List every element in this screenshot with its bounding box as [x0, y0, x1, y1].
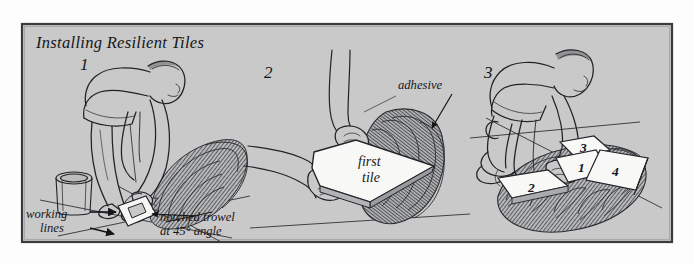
- figure-title: Installing Resilient Tiles: [35, 33, 204, 52]
- first-tile-label-line1: first: [358, 154, 382, 169]
- illustration-canvas: 1 working lines notched trowel at 45° an…: [0, 0, 694, 265]
- working-lines-label-line1: working: [26, 207, 67, 221]
- laid-tile-2-number: 2: [527, 180, 535, 195]
- panel-2-number: 2: [264, 63, 273, 82]
- notched-trowel-label-line2: at 45° angle: [160, 224, 222, 238]
- adhesive-label: adhesive: [398, 78, 442, 92]
- laid-tile-4-number: 4: [611, 164, 619, 179]
- panel-1-number: 1: [80, 55, 89, 74]
- illustration-figure: 1 working lines notched trowel at 45° an…: [0, 0, 694, 265]
- working-lines-label-line2: lines: [40, 221, 64, 235]
- notched-trowel-label-line1: notched trowel: [160, 210, 235, 224]
- first-tile-label-line2: tile: [362, 170, 380, 185]
- panel-3-number: 3: [483, 63, 493, 82]
- laid-tile-1-number: 1: [578, 160, 585, 175]
